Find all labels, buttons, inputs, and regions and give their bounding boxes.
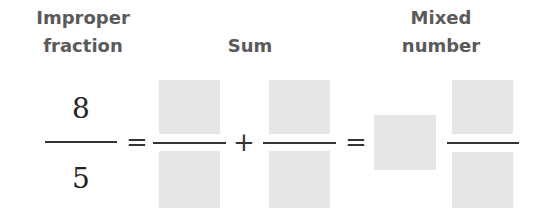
sum-term1-numerator-box[interactable] <box>159 80 220 134</box>
mixed-denominator-box[interactable] <box>452 152 513 208</box>
sum-term2-numerator-box[interactable] <box>269 80 330 134</box>
plus-sign: + <box>233 129 255 155</box>
improper-fraction-bar <box>45 141 117 143</box>
label-mixed-line2: number <box>376 34 506 58</box>
mixed-whole-box[interactable] <box>374 115 436 170</box>
label-improper-line1: Improper <box>20 6 146 30</box>
label-mixed-line1: Mixed <box>376 6 506 30</box>
improper-denominator: 5 <box>45 162 117 195</box>
label-sum: Sum <box>200 34 300 58</box>
sum-term1-fraction-bar <box>153 142 226 144</box>
sum-term2-fraction-bar <box>263 142 336 144</box>
label-improper-line2: fraction <box>20 34 146 58</box>
equals-sign-2: = <box>345 129 367 155</box>
mixed-numerator-box[interactable] <box>452 80 513 134</box>
sum-term1-denominator-box[interactable] <box>159 151 220 208</box>
equals-sign-1: = <box>126 129 148 155</box>
improper-numerator: 8 <box>45 92 117 125</box>
mixed-fraction-bar <box>447 142 519 144</box>
sum-term2-denominator-box[interactable] <box>269 151 330 208</box>
